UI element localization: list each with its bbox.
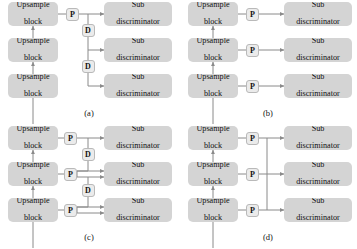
- sub-discriminator: Subdiscriminator: [104, 162, 172, 186]
- projection-node-p: P: [66, 8, 79, 21]
- panel-c: Upsampleblock Upsampleblock Upsamplebloc…: [0, 124, 178, 248]
- panel-caption: (b): [179, 108, 357, 118]
- figure-container: Upsampleblock Upsampleblock Upsamplebloc…: [0, 0, 357, 249]
- sub-discriminator: Subdiscriminator: [104, 2, 172, 26]
- upsample-block: Upsampleblock: [188, 2, 238, 26]
- downsample-node-d: D: [82, 24, 95, 37]
- upsample-block: Upsampleblock: [8, 74, 58, 98]
- panel-caption: (d): [179, 232, 357, 242]
- sub-discriminator: Subdiscriminator: [104, 74, 172, 98]
- sub-discriminator: Subdiscriminator: [284, 126, 352, 150]
- projection-node-p: P: [64, 168, 77, 181]
- panel-d: Upsampleblock Upsampleblock Upsamplebloc…: [179, 124, 357, 248]
- downsample-node-d: D: [82, 60, 95, 73]
- projection-node-p: P: [246, 80, 259, 93]
- sub-discriminator: Subdiscriminator: [284, 38, 352, 62]
- panel-caption: (a): [0, 108, 178, 118]
- sub-discriminator: Subdiscriminator: [284, 162, 352, 186]
- panel-caption: (c): [0, 232, 178, 242]
- upsample-block: Upsampleblock: [8, 126, 58, 150]
- projection-node-p: P: [64, 132, 77, 145]
- upsample-block: Upsampleblock: [188, 38, 238, 62]
- panel-a: Upsampleblock Upsampleblock Upsamplebloc…: [0, 0, 178, 124]
- sub-discriminator: Subdiscriminator: [284, 198, 352, 222]
- upsample-block: Upsampleblock: [8, 198, 58, 222]
- projection-node-p: P: [246, 168, 259, 181]
- sub-discriminator: Subdiscriminator: [284, 2, 352, 26]
- sub-discriminator: Subdiscriminator: [104, 198, 172, 222]
- projection-node-p: P: [64, 204, 77, 217]
- sub-discriminator: Subdiscriminator: [284, 74, 352, 98]
- sub-discriminator: Subdiscriminator: [104, 38, 172, 62]
- sub-discriminator: Subdiscriminator: [104, 126, 172, 150]
- panel-b: Upsampleblock Upsampleblock Upsamplebloc…: [179, 0, 357, 124]
- projection-node-p: P: [246, 8, 259, 21]
- projection-node-p: P: [246, 204, 259, 217]
- upsample-block: Upsampleblock: [8, 38, 58, 62]
- upsample-block: Upsampleblock: [188, 74, 238, 98]
- projection-node-p: P: [246, 44, 259, 57]
- projection-node-p: P: [246, 132, 259, 145]
- upsample-block: Upsampleblock: [8, 162, 58, 186]
- upsample-block: Upsampleblock: [8, 2, 58, 26]
- upsample-block: Upsampleblock: [188, 198, 238, 222]
- upsample-block: Upsampleblock: [188, 162, 238, 186]
- downsample-node-d: D: [82, 148, 95, 161]
- upsample-block: Upsampleblock: [188, 126, 238, 150]
- downsample-node-d: D: [82, 184, 95, 197]
